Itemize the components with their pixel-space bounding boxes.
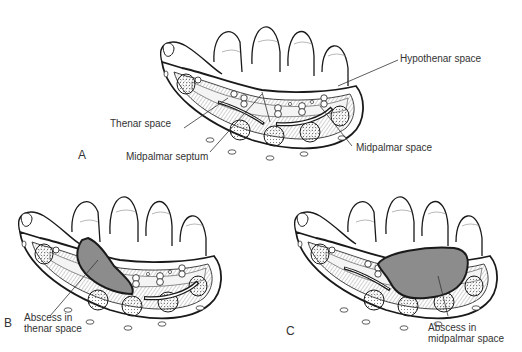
label-abscess-midpalmar-line1: Abscess in <box>428 322 476 333</box>
panel-a-drawing <box>161 27 363 160</box>
label-hypothenar-space: Hypothenar space <box>400 53 481 64</box>
panel-letter-b: B <box>4 316 12 330</box>
panel-c-drawing <box>295 197 497 330</box>
panel-b-drawing <box>19 197 221 330</box>
label-abscess-thenar-line2: thenar space <box>24 323 82 334</box>
label-midpalmar-space: Midpalmar space <box>356 142 432 153</box>
label-abscess-midpalmar-line2: midpalmar space <box>428 333 504 344</box>
panel-letter-a: A <box>78 148 86 162</box>
label-thenar-space: Thenar space <box>110 118 171 129</box>
panel-letter-c: C <box>286 324 295 338</box>
hand-palmar-spaces-figure: Hypothenar space Thenar space Midpalmar … <box>0 0 522 352</box>
label-midpalmar-septum: Midpalmar septum <box>126 151 208 162</box>
label-abscess-thenar-line1: Abscess in <box>24 312 72 323</box>
